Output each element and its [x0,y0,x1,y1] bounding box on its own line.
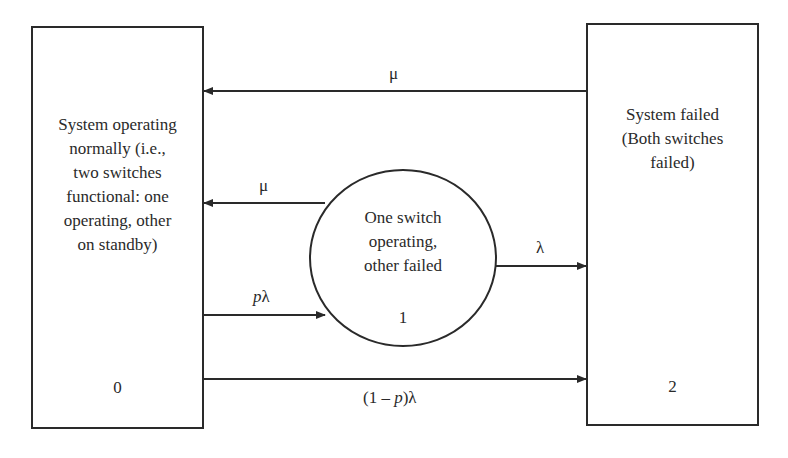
rate-label-1-to-2: λ [536,238,544,258]
rate-symbol-lambda: λ [262,287,270,306]
state-1-description: One switch operating, other failed [318,206,488,278]
state-0-description: System operating normally (i.e., two swi… [32,113,203,257]
rate-label-2-to-0: μ [389,64,398,84]
rate-var-p: p [394,388,403,407]
rate-prefix: (1 – [363,388,394,407]
state-1-line: other failed [318,254,488,278]
state-1-label: 1 [353,308,453,328]
state-0-line: two switches [32,161,203,185]
rate-suffix: )λ [403,388,417,407]
rate-var-p: p [253,287,262,306]
rate-label-0-to-2: (1 – p)λ [363,388,417,408]
state-2-label: 2 [587,377,758,397]
state-0-line: functional: one [32,185,203,209]
rate-label-1-to-0: μ [259,176,268,196]
state-1-line: One switch [318,206,488,230]
state-0-line: normally (i.e., [32,137,203,161]
state-0-line: on standby) [32,233,203,257]
state-2-line: (Both switches [587,127,758,151]
state-2-box [587,24,758,425]
state-2-line: failed) [587,151,758,175]
rate-label-0-to-1: pλ [253,287,270,307]
state-1-line: operating, [318,230,488,254]
state-0-label: 0 [32,378,203,398]
state-2-line: System failed [587,103,758,127]
state-0-line: System operating [32,113,203,137]
state-2-description: System failed (Both switches failed) [587,103,758,175]
state-0-line: operating, other [32,209,203,233]
